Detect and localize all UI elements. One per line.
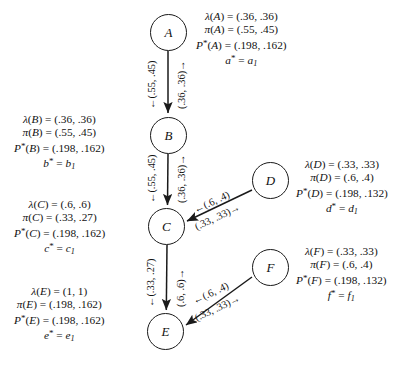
node-c-label: C xyxy=(162,219,171,235)
node-a-label: A xyxy=(164,25,172,41)
annotation-b-lambda: λ(B) = (.36, .36) xyxy=(14,113,105,126)
annotation-c-pi: π(C) = (.33, .27) xyxy=(14,211,105,224)
annotation-f-pi: π(F) = (.6, .4) xyxy=(296,258,387,271)
annotation-c-assignment: c* = c1 xyxy=(14,240,105,258)
annotation-d-pi: π(D) = (.6, .4) xyxy=(296,171,388,184)
edge-b-c xyxy=(168,154,169,205)
annotation-f-assignment: f* = f1 xyxy=(296,287,387,305)
annotation-b: λ(B) = (.36, .36) π(B) = (.55, .45) P*(B… xyxy=(14,113,105,174)
node-f-label: F xyxy=(266,260,274,276)
annotation-a-lambda: λ(A) = (.36, .36) xyxy=(196,10,287,23)
annotation-e-pstar: P*(E) = (.198, .162) xyxy=(14,312,105,327)
annotation-a-pstar: P*(A) = (.198, .162) xyxy=(196,37,287,52)
node-b-label: B xyxy=(164,128,172,144)
annotation-c-pstar: P*(C) = (.198, .162) xyxy=(14,225,105,240)
node-a[interactable]: A xyxy=(150,14,187,51)
annotation-a-assignment: a* = a1 xyxy=(196,52,287,70)
node-d[interactable]: D xyxy=(252,162,289,199)
edge-a-b-lambda-label: ←(.55, .45) xyxy=(146,61,157,109)
annotation-d: λ(D) = (.33, .33) π(D) = (.6, .4) P*(D) … xyxy=(296,158,388,219)
annotation-b-pstar: P*(B) = (.198, .162) xyxy=(14,140,105,155)
edge-c-e-lambda-label: ←(.33, .27) xyxy=(145,259,156,307)
edge-c-e-pi-label: (.6, .6)→ xyxy=(175,269,186,307)
node-e-label: E xyxy=(161,324,169,340)
annotation-e-pi: π(E) = (.198, .162) xyxy=(14,298,105,311)
annotation-a: λ(A) = (.36, .36) π(A) = (.55, .45) P*(A… xyxy=(196,10,287,71)
annotation-e-assignment: e* = e1 xyxy=(14,327,105,345)
edge-b-c-pi-label: (.36, .36)→ xyxy=(176,155,187,203)
annotation-d-pstar: P*(D) = (.198, .132) xyxy=(296,185,388,200)
edge-b-c-lambda-label: ←(.55, .45) xyxy=(146,155,157,203)
annotation-a-pi: π(A) = (.55, .45) xyxy=(196,23,287,36)
edge-a-b-pi-label: (.36, .36)→ xyxy=(176,61,187,109)
annotation-b-assignment: b* = b1 xyxy=(14,155,105,173)
annotation-c: λ(C) = (.6, .6) π(C) = (.33, .27) P*(C) … xyxy=(14,198,105,259)
node-e[interactable]: E xyxy=(147,313,184,350)
node-b[interactable]: B xyxy=(150,117,187,154)
diagram-canvas: A B C D E F ←(.55, .45) (.36, .36)→ ←(.5… xyxy=(0,0,407,367)
annotation-f-lambda: λ(F) = (.33, .33) xyxy=(296,245,387,258)
annotation-f-pstar: P*(F) = (.198, .132) xyxy=(296,272,387,287)
annotation-d-lambda: λ(D) = (.33, .33) xyxy=(296,158,388,171)
annotation-f: λ(F) = (.33, .33) π(F) = (.6, .4) P*(F) … xyxy=(296,245,387,306)
node-c[interactable]: C xyxy=(148,208,185,245)
annotation-e-lambda: λ(E) = (1, 1) xyxy=(14,285,105,298)
annotation-d-assignment: d* = d1 xyxy=(296,200,388,218)
annotation-e: λ(E) = (1, 1) π(E) = (.198, .162) P*(E) … xyxy=(14,285,105,346)
node-f[interactable]: F xyxy=(252,249,289,286)
node-d-label: D xyxy=(266,173,276,189)
annotation-c-lambda: λ(C) = (.6, .6) xyxy=(14,198,105,211)
edge-c-e xyxy=(166,245,167,310)
annotation-b-pi: π(B) = (.55, .45) xyxy=(14,126,105,139)
